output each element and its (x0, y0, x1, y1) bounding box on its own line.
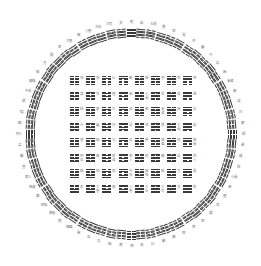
yin-line (32, 130, 33, 139)
ring-hexagram-label: 比 (149, 242, 157, 246)
yang-line (135, 177, 144, 178)
grid-hexagram-cell: 姤 (183, 123, 199, 139)
hexagram-symbol (70, 154, 79, 163)
yang-line (102, 146, 111, 147)
grid-hexagram-cell: 家人 (119, 154, 135, 170)
yin-line (127, 235, 136, 236)
hexagram-symbol (27, 109, 38, 120)
grid-hexagram-cell: 豫 (135, 76, 151, 92)
grid-hexagram-label: 革 (177, 154, 182, 158)
grid-hexagram-label: 豐 (145, 154, 150, 158)
grid-hexagram-cell: 蠱 (86, 123, 102, 139)
yin-line (102, 84, 111, 85)
yin-line (167, 130, 176, 131)
yang-line (70, 146, 79, 147)
ring-hexagram-label: 否 (198, 219, 206, 223)
hexagram-symbol (151, 185, 160, 194)
yang-line (235, 119, 237, 128)
grid-hexagram-label: 睽 (161, 169, 166, 173)
yang-line (86, 161, 95, 162)
ring-hexagram-label: 豐 (20, 165, 28, 169)
yin-line (234, 130, 235, 139)
grid-hexagram-label: 既濟 (112, 154, 117, 162)
ring-hexagram (106, 30, 117, 41)
yin-line (70, 130, 79, 131)
grid-hexagram-cell: 兌 (167, 169, 183, 185)
yin-line (151, 84, 160, 85)
grid-hexagram-label: 蠱 (96, 123, 101, 127)
yang-line (229, 130, 230, 139)
hexagram-symbol (167, 154, 176, 163)
grid-hexagram-label: 蒙 (96, 107, 101, 111)
ring-hexagram-label: 升 (206, 53, 214, 57)
hexagram-symbol (151, 123, 160, 132)
ring-hexagram-label: 損 (17, 110, 25, 114)
ring-hexagram-label: 遯 (238, 143, 246, 147)
grid-hexagram-label: 頤 (96, 138, 101, 142)
grid-hexagram-label: 同人 (193, 154, 198, 162)
ring-hexagram-label: 睽 (34, 70, 42, 74)
hexagram-symbol (151, 154, 160, 163)
hexagram-symbol (86, 76, 95, 85)
grid-hexagram-label: 小畜 (129, 185, 134, 193)
yang-line (26, 130, 27, 139)
grid-hexagram-cell: 睽 (151, 169, 167, 185)
hexagram-symbol (102, 92, 111, 101)
ring-hexagram-label: 姤 (138, 21, 146, 25)
hexagram-symbol (135, 185, 144, 194)
yin-line (86, 84, 95, 85)
ring-hexagram (227, 119, 237, 129)
yin-line (86, 130, 95, 131)
grid-hexagram-cell: 大畜 (86, 185, 102, 201)
ring-hexagram (155, 225, 166, 236)
grid-hexagram-label: 履 (193, 169, 198, 173)
hexagram-symbol (119, 138, 128, 147)
yin-line (167, 99, 176, 100)
yang-line (33, 130, 34, 139)
yin-line (183, 130, 192, 131)
grid-hexagram-cell: 剝 (86, 76, 102, 92)
ring-hexagram-label: 艮 (214, 203, 222, 207)
grid-hexagram-cell: 升 (70, 123, 86, 139)
grid-hexagram-label: 井 (112, 123, 117, 127)
grid-hexagram-label: 震 (145, 138, 150, 142)
yang-line (151, 146, 160, 147)
grid-hexagram-cell: 蹇 (102, 92, 118, 108)
hexagram-symbol (127, 29, 136, 38)
grid-hexagram-cell: 解 (135, 107, 151, 123)
yang-line (167, 192, 176, 193)
grid-hexagram-cell: 比 (102, 76, 118, 92)
hexagram-symbol (135, 154, 144, 163)
ring-hexagram-label: 渙 (234, 99, 242, 103)
ring-hexagram-label: 大畜 (65, 39, 73, 43)
yin-line (102, 99, 111, 100)
grid-hexagram-label: 屯 (112, 138, 117, 142)
grid-hexagram-label: 蹇 (112, 92, 117, 96)
yin-line (167, 84, 176, 85)
hexagram-symbol (135, 92, 144, 101)
ring-hexagram (106, 228, 117, 239)
hexagram-square-grid: 坤剝比觀豫晉萃否謙艮蹇漸小過旅咸遯師蒙坎渙解未濟困訟升蠱井巽恆鼎大過姤復頤屯益震… (70, 76, 200, 200)
hexagram-symbol (102, 169, 111, 178)
grid-hexagram-label: 乾 (193, 185, 198, 189)
ring-hexagram-label: 豫 (170, 235, 178, 239)
yang-line (119, 192, 128, 193)
ring-hexagram-label: 解 (230, 89, 238, 93)
grid-hexagram-label: 噬嗑 (161, 138, 166, 146)
yang-line (183, 146, 192, 147)
hexagram-symbol (167, 107, 176, 116)
grid-hexagram-label: 隨 (177, 138, 182, 142)
ring-hexagram-label: 未濟 (226, 79, 234, 83)
yang-line (183, 192, 192, 193)
hexagram-symbol (119, 169, 128, 178)
yin-line (232, 130, 233, 139)
yin-line (116, 238, 125, 240)
grid-hexagram-cell: 既濟 (102, 154, 118, 170)
yang-line (119, 177, 128, 178)
yin-line (135, 115, 144, 116)
ring-hexagram-label: 謙 (206, 211, 214, 215)
grid-hexagram-cell: 損 (86, 169, 102, 185)
ring-hexagram-label: 蹇 (220, 194, 228, 198)
grid-hexagram-label: 益 (129, 138, 134, 142)
hexagram-symbol (70, 76, 79, 85)
